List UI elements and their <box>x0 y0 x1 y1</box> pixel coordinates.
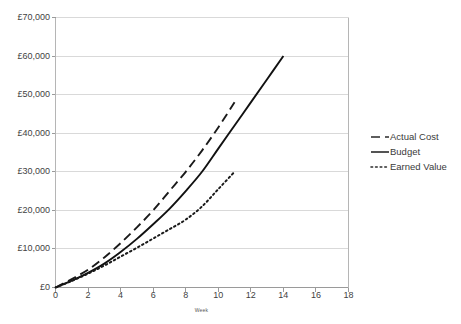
axis-lines <box>56 18 349 292</box>
legend-label: Budget <box>390 147 420 157</box>
x-axis-tick-label: 12 <box>239 290 263 300</box>
x-axis-tick-label: 18 <box>337 290 361 300</box>
x-axis-tick-label: 2 <box>76 290 100 300</box>
y-axis-tick-text: £50,000 <box>0 90 50 99</box>
legend-marker-dotted-icon <box>370 162 390 172</box>
y-axis-tick-text: £40,000 <box>0 129 50 138</box>
y-axis-tick-text: £70,000 <box>0 13 50 22</box>
series-line-actual-cost <box>56 102 235 287</box>
y-axis-tick-text: £30,000 <box>0 167 50 176</box>
x-axis-tick-label: 0 <box>44 290 68 300</box>
y-axis-tick-text: £60,000 <box>0 52 50 61</box>
x-axis-tick-label: 16 <box>304 290 328 300</box>
legend-item-actual-cost[interactable]: Actual Cost <box>370 129 460 144</box>
series-line-earned-value <box>56 172 235 288</box>
chart-container: £0£10,000£20,000£30,000£40,000£50,000£60… <box>0 0 461 324</box>
legend-marker-solid-icon <box>370 147 390 157</box>
y-axis-tick-text: £0 <box>0 283 50 292</box>
x-axis-tick-label: 4 <box>109 290 133 300</box>
legend-marker-dashed-icon <box>370 132 390 142</box>
x-axis-tick-label: 10 <box>206 290 230 300</box>
legend-item-earned-value[interactable]: Earned Value <box>370 159 460 174</box>
y-axis-tick-text: £10,000 <box>0 244 50 253</box>
y-axis-tick-text: £20,000 <box>0 206 50 215</box>
x-axis-tick-label: 8 <box>174 290 198 300</box>
chart-legend: Actual CostBudgetEarned Value <box>370 129 460 174</box>
x-axis-tick-label: 6 <box>141 290 165 300</box>
legend-label: Actual Cost <box>390 132 439 142</box>
legend-label: Earned Value <box>390 162 447 172</box>
x-axis-title: Week <box>0 307 403 313</box>
x-axis-tick-label: 14 <box>271 290 295 300</box>
legend-item-budget[interactable]: Budget <box>370 144 460 159</box>
